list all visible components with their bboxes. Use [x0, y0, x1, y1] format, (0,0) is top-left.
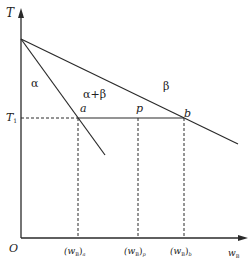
region-beta-label: β	[163, 80, 169, 93]
point-a-label: a	[80, 102, 87, 115]
phase-diagram: T O wB T1 α α+β β a p b (wB)a (wB)p (wB)…	[0, 0, 252, 265]
x-tick-p-label: (wB)p	[124, 246, 146, 258]
region-alpha-label: α	[31, 77, 39, 90]
point-b-label: b	[184, 107, 191, 120]
t1-label: T1	[6, 111, 17, 124]
region-alpha-beta-label: α+β	[83, 88, 106, 101]
x-axis-arrow-icon	[238, 235, 248, 241]
point-p-label: p	[136, 102, 143, 115]
x-axis-label: wB	[228, 248, 240, 259]
y-axis-arrow-icon	[18, 8, 24, 18]
x-tick-b-label: (wB)b	[170, 246, 192, 257]
x-tick-a-label: (wB)a	[64, 246, 85, 257]
origin-label: O	[9, 242, 18, 255]
y-axis-label: T	[6, 6, 15, 20]
beta-boundary-line	[21, 39, 238, 144]
